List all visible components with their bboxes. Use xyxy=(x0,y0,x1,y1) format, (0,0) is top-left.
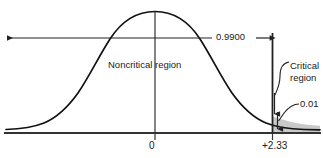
distribution-chart-svg xyxy=(0,0,323,158)
alpha-level-label: 0.01 xyxy=(300,98,319,109)
x-axis-tick-label-critical-value: +2.33 xyxy=(262,140,287,151)
confidence-level-label: 0.9900 xyxy=(214,31,247,42)
x-axis-tick-label-zero: 0 xyxy=(149,140,155,151)
critical-region-label: Critical region xyxy=(290,60,319,84)
noncritical-region-label: Noncritical region xyxy=(108,59,181,70)
normal-distribution-figure: Noncritical region 0.9900 Critical regio… xyxy=(0,0,323,158)
alpha-leader-line xyxy=(279,104,300,121)
critical-region-label-line2: region xyxy=(290,72,319,84)
critical-region-leader-line xyxy=(275,62,289,95)
critical-region-label-line1: Critical xyxy=(290,60,319,72)
